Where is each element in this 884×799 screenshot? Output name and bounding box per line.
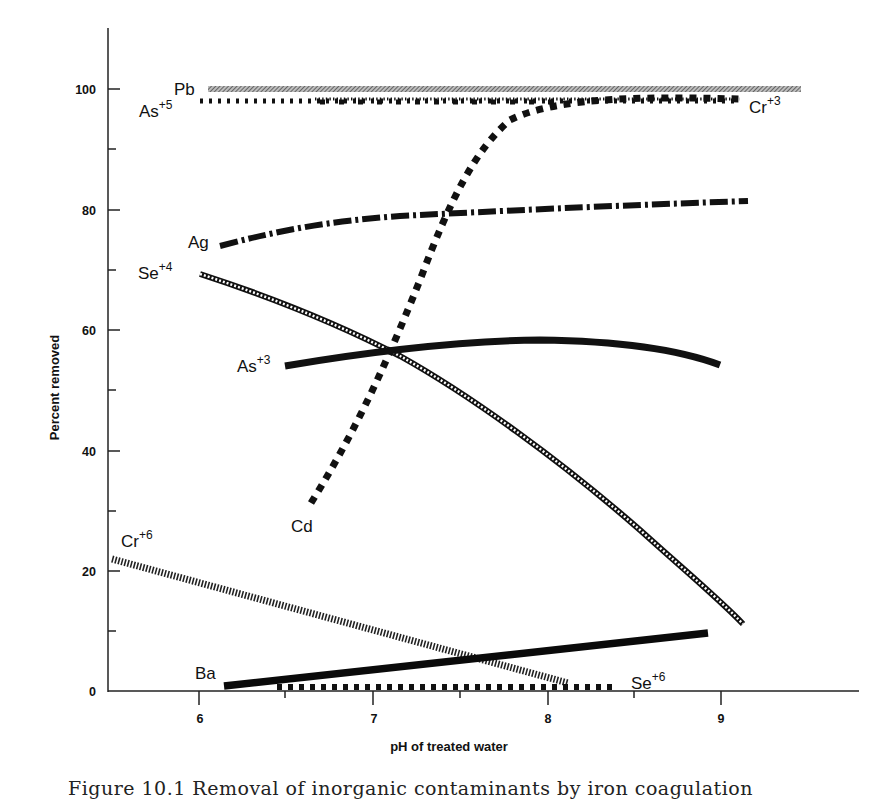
label-pb: Pb	[174, 80, 195, 99]
y-tick-label: 0	[89, 685, 96, 699]
y-tick-label: 40	[82, 445, 96, 459]
series-cr6	[112, 559, 568, 683]
label-se4: Se+4	[138, 260, 173, 283]
x-tick-label: 7	[371, 712, 378, 726]
x-tick-labels: 6 7 8 9	[197, 712, 725, 726]
y-tick-label: 80	[82, 204, 96, 218]
x-tick-label: 9	[718, 712, 725, 726]
y-axis-label: Percent removed	[47, 328, 62, 448]
label-cr6: Cr+6	[121, 528, 153, 551]
y-tick-labels: 100 80 60 40 20 0	[75, 83, 96, 699]
x-axis-label: pH of treated water	[0, 739, 884, 754]
label-as3: As+3	[237, 353, 271, 376]
label-as5: As+5	[139, 98, 173, 121]
label-ba: Ba	[195, 664, 216, 683]
label-cr3: Cr+3	[749, 94, 781, 117]
y-tick-label: 60	[82, 324, 96, 338]
x-ticks	[199, 691, 721, 705]
series-as3	[285, 340, 720, 366]
label-se6: Se+6	[631, 670, 666, 693]
y-tick-label: 100	[75, 83, 96, 97]
label-cd: Cd	[291, 517, 313, 536]
series-se4	[200, 274, 743, 624]
series-as5-cr3	[200, 99, 740, 102]
series-ag	[220, 201, 748, 246]
figure-caption: Figure 10.1 Removal of inorganic contami…	[68, 777, 753, 799]
x-tick-label: 8	[545, 712, 552, 726]
y-ticks	[108, 89, 120, 631]
label-ag: Ag	[188, 233, 209, 252]
series-cd	[311, 98, 740, 503]
series-pb	[208, 86, 801, 92]
y-tick-label: 20	[82, 565, 96, 579]
x-tick-label: 6	[197, 712, 204, 726]
